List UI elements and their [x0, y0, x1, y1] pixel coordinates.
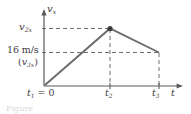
label-v3x: (v3x) — [18, 57, 38, 67]
x-tick-label-t2: t2 — [105, 88, 113, 98]
velocity-curve — [45, 29, 159, 86]
x-tick-label-t3: t3 — [152, 88, 160, 98]
y-axis-arrow-icon — [41, 9, 46, 15]
label-v2x: v2x — [19, 22, 32, 32]
velocity-time-figure: vx v2x 16 m/s (v3x) t1 = 0 t2 t3 t Figur… — [0, 0, 191, 114]
x-axis-label: t — [171, 88, 175, 98]
x-tick-label-t1: t1 = 0 — [27, 88, 55, 98]
y-axis-label: vx — [47, 4, 56, 14]
figure-caption: Figure — [6, 104, 33, 113]
peak-data-point — [107, 26, 112, 31]
label-16-m-per-s: 16 m/s — [7, 45, 39, 55]
x-axis-arrow-icon — [177, 83, 183, 88]
